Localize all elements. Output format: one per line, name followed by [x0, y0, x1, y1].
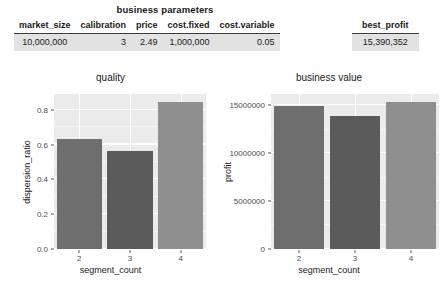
y-tick-mark: [51, 214, 54, 215]
best-profit-header-row: best_profit: [352, 19, 419, 34]
x-tick-mark: [180, 250, 181, 253]
x-tick-label: 2: [77, 254, 81, 263]
y-tick-label: 10000000: [213, 149, 265, 158]
y-tick-mark: [51, 179, 54, 180]
y-tick-label: 0.8: [8, 105, 48, 114]
y-tick-label: 0: [213, 245, 265, 254]
y-tick-mark: [51, 109, 54, 110]
x-tick-mark: [299, 250, 300, 253]
y-tick-mark: [51, 144, 54, 145]
bar-2: [57, 139, 103, 249]
y-tick-label: 0.0: [8, 245, 48, 254]
y-tick-label: 5000000: [213, 197, 265, 206]
table-row: 10,000,000 3 2.49 1,000,000 0.05: [14, 34, 280, 52]
x-tick-label: 4: [178, 254, 182, 263]
chart-business-value: business value profit 050000001000000015…: [213, 72, 445, 292]
bar-2: [274, 106, 324, 249]
table-header-row: market_size calibration price cost.fixed…: [14, 19, 280, 34]
chart-quality-title: quality: [8, 72, 213, 83]
x-tick-mark: [411, 250, 412, 253]
cell-market-size: 10,000,000: [14, 34, 76, 52]
cell-cost-variable: 0.05: [215, 34, 280, 52]
column-header-best-profit: best_profit: [352, 19, 419, 34]
business-parameters-table: market_size calibration price cost.fixed…: [14, 19, 280, 51]
x-tick-mark: [79, 250, 80, 253]
x-tick-label: 4: [409, 254, 413, 263]
cell-calibration: 3: [76, 34, 132, 52]
x-tick-mark: [355, 250, 356, 253]
chart-business-value-x-axis-title: segment_count: [213, 265, 445, 275]
cell-price: 2.49: [131, 34, 163, 52]
bar-4: [386, 102, 436, 249]
x-tick-label: 3: [128, 254, 132, 263]
bar-3: [330, 116, 380, 249]
table-title: business parameters: [0, 4, 330, 15]
y-tick-mark: [268, 153, 271, 154]
y-tick-label: 15000000: [213, 101, 265, 110]
bar-3: [107, 151, 153, 249]
cell-best-profit: 15,390,352: [352, 34, 419, 52]
bar-4: [158, 102, 204, 249]
y-tick-mark: [51, 249, 54, 250]
y-tick-mark: [268, 201, 271, 202]
column-header-cost-variable: cost.variable: [215, 19, 280, 34]
column-header-cost-fixed: cost.fixed: [163, 19, 215, 34]
chart-quality-x-axis-title: segment_count: [8, 265, 213, 275]
best-profit-row: 15,390,352: [352, 34, 419, 52]
best-profit-table: best_profit 15,390,352: [352, 19, 419, 51]
chart-quality-y-axis-title: dispersion_ratio: [22, 140, 32, 204]
chart-business-value-y-axis-title: profit: [223, 161, 233, 181]
x-tick-label: 2: [297, 254, 301, 263]
y-tick-mark: [268, 249, 271, 250]
y-tick-mark: [268, 105, 271, 106]
column-header-market-size: market_size: [14, 19, 76, 34]
column-header-price: price: [131, 19, 163, 34]
column-header-calibration: calibration: [76, 19, 132, 34]
cell-cost-fixed: 1,000,000: [163, 34, 215, 52]
chart-quality: quality dispersion_ratio 0.00.20.40.60.8…: [8, 72, 213, 292]
y-tick-label: 0.6: [8, 140, 48, 149]
business-parameters-block: business parameters market_size calibrat…: [0, 0, 445, 64]
x-tick-label: 3: [353, 254, 357, 263]
chart-business-value-title: business value: [213, 72, 445, 83]
y-tick-label: 0.4: [8, 175, 48, 184]
x-tick-mark: [130, 250, 131, 253]
chart-quality-plot-panel: [54, 94, 206, 249]
y-tick-label: 0.2: [8, 210, 48, 219]
chart-business-value-plot-panel: [271, 94, 439, 249]
